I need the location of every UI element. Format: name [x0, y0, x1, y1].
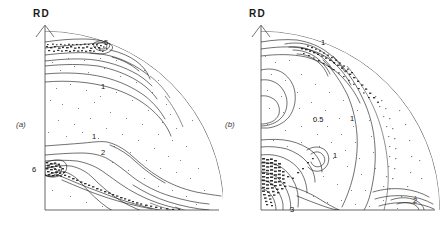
contour-label: 1 [333, 151, 337, 160]
panel-b-plot: 1 0.5 1 1 3 2 [223, 0, 446, 229]
pole-figure-figure: RD (a) [0, 0, 446, 229]
contour-label: 3 [290, 205, 294, 214]
pole-figure-panel-b: RD (b) [223, 0, 446, 229]
contour-group-a [45, 31, 223, 220]
contour-label: 6 [32, 165, 36, 174]
rd-arrow-a [36, 25, 54, 210]
density-speckle-b [262, 46, 428, 209]
contour-label: 0.5 [313, 115, 323, 124]
pole-figure-panel-a: RD (a) [0, 0, 223, 229]
rd-arrow-b [252, 25, 270, 210]
contour-label: 1 [350, 114, 354, 123]
contour-label: 1 [92, 132, 96, 141]
panel-a-plot: 5 1 1 2 6 [0, 0, 223, 229]
contour-label: 1 [321, 38, 325, 47]
contour-label: 2 [413, 196, 417, 205]
contour-label: 1 [101, 82, 105, 91]
contour-label: 2 [101, 148, 105, 157]
contour-label: 5 [104, 38, 108, 47]
